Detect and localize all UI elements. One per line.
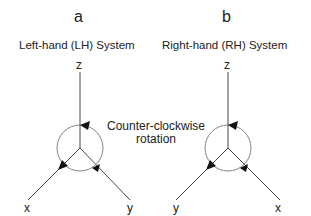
rh-rotation-arrows — [206, 121, 248, 172]
lh-rotation-arrows — [58, 121, 100, 172]
panel-b-letter: b — [222, 8, 231, 26]
rh-x-label: x — [275, 201, 281, 215]
rotation-line2: rotation — [106, 133, 206, 146]
lh-y-label: y — [127, 201, 133, 215]
lh-z-label: z — [76, 58, 82, 72]
coordinate-systems-diagram — [0, 0, 311, 216]
lh-x-label: x — [24, 201, 30, 215]
panel-a-title: Left-hand (LH) System — [19, 39, 135, 51]
panel-a-letter: a — [74, 8, 83, 26]
panel-b-title: Right-hand (RH) System — [162, 39, 287, 51]
rh-y-label: y — [173, 201, 179, 215]
rotation-annotation: Counter-clockwise rotation — [106, 120, 206, 146]
rh-z-label: z — [224, 58, 230, 72]
